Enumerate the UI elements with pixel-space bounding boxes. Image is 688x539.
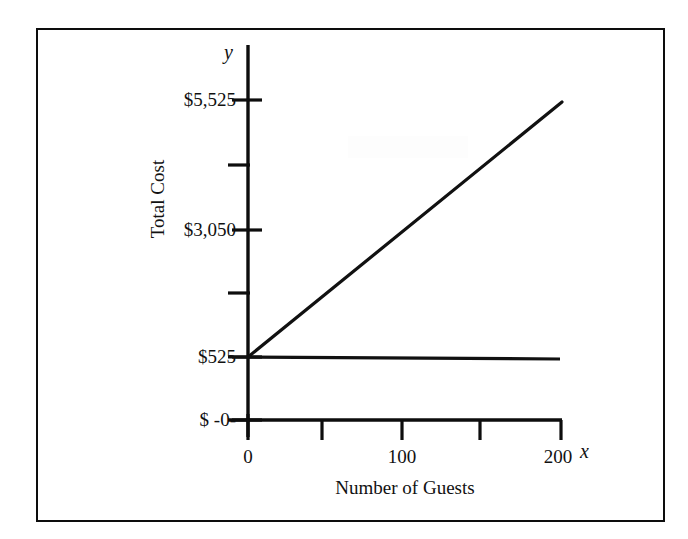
series-fixed-cost-line [228,357,560,359]
x-axis-title: Number of Guests [265,477,545,499]
y-tick-label-zero: $ -0- [126,410,236,429]
y-tick-label-5525: $5,525 [126,90,236,109]
chart-plot-area: $5,525 $3,050 $525 $ -0- 0 100 200 y x T… [0,0,688,539]
x-axis-variable-label: x [580,440,589,463]
y-axis-title: Total Cost [147,129,169,269]
y-axis-variable-label: y [224,41,233,64]
series-total-cost-line [248,102,562,357]
y-tick-label-525: $525 [126,347,236,366]
y-tick-label-3050: $3,050 [126,220,236,239]
x-tick-label-0: 0 [208,447,288,466]
x-tick-label-100: 100 [362,447,442,466]
